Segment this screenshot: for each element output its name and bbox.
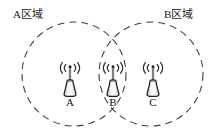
- cell-tower-icon: [104, 62, 123, 96]
- tower-label-a: A: [61, 97, 79, 108]
- tower-label-c: C: [144, 97, 162, 108]
- region-label-a: A区域: [13, 9, 43, 20]
- coverage-diagram: A区域 B区域 A B C: [0, 0, 222, 136]
- tower-group-b: [104, 62, 123, 96]
- tower-group-c: [144, 62, 163, 96]
- diagram-canvas: [0, 0, 222, 136]
- cell-tower-icon: [144, 62, 163, 96]
- tower-group-a: [61, 62, 80, 96]
- tower-label-b: B: [104, 97, 122, 108]
- coverage-circle-a: [22, 22, 126, 126]
- region-label-b: B区域: [164, 9, 193, 20]
- cell-tower-icon: [61, 62, 80, 96]
- coverage-circle-b: [99, 22, 203, 126]
